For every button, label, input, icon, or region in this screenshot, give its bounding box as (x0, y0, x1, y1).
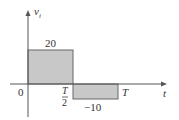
waveform-diagram: vi t 0 T 2 T 20 −10 (0, 0, 179, 120)
period-label: T (122, 87, 128, 98)
half-period-denominator: 2 (62, 98, 67, 108)
y-axis-label: vi (34, 6, 41, 20)
negative-value-label: −10 (84, 102, 101, 113)
x-axis-label: t (163, 88, 166, 99)
half-period-numerator: T (62, 86, 68, 96)
positive-pulse (28, 50, 73, 84)
negative-pulse (73, 84, 118, 99)
x-axis-arrow-icon (161, 82, 167, 87)
origin-label: 0 (18, 87, 24, 98)
positive-value-label: 20 (45, 38, 56, 49)
y-axis-arrow-icon (26, 10, 31, 16)
